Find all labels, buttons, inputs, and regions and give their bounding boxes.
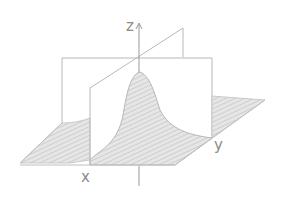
x-axis-label: x xyxy=(81,168,90,186)
surface-diagram: z x y xyxy=(0,0,281,198)
z-axis-label: z xyxy=(126,17,134,35)
base-surface-left xyxy=(20,118,90,163)
y-axis-label: y xyxy=(214,136,223,154)
z-axis xyxy=(136,23,142,72)
base-surface-right xyxy=(212,96,265,138)
